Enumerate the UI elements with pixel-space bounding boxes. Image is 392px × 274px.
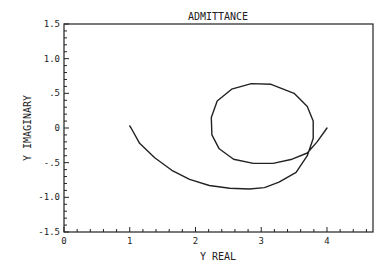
svg-text:0: 0 — [55, 123, 60, 133]
svg-text:-1.0: -1.0 — [38, 192, 60, 202]
svg-text:1: 1 — [127, 236, 132, 246]
admittance-curve — [130, 84, 327, 189]
chart-title: ADMITTANCE — [188, 11, 248, 22]
svg-text:.5: .5 — [49, 88, 60, 98]
svg-text:4: 4 — [324, 236, 329, 246]
x-axis-ticks — [64, 227, 366, 232]
svg-text:-.5: -.5 — [44, 158, 60, 168]
y-axis-ticks — [64, 24, 69, 232]
svg-text:-1.5: -1.5 — [38, 227, 60, 237]
admittance-chart: ADMITTANCE Y REAL Y IMAGINARY 01234 1.51… — [0, 0, 392, 274]
svg-text:1.5: 1.5 — [44, 19, 60, 29]
svg-text:0: 0 — [61, 236, 66, 246]
y-axis-label: Y IMAGINARY — [22, 95, 33, 161]
x-axis-tick-labels: 01234 — [61, 236, 329, 246]
x-axis-label: Y REAL — [200, 251, 236, 262]
svg-text:2: 2 — [193, 236, 198, 246]
svg-text:1.0: 1.0 — [44, 54, 60, 64]
svg-text:3: 3 — [259, 236, 264, 246]
y-axis-tick-labels: 1.51.0.50-.5-1.0-1.5 — [38, 19, 60, 237]
